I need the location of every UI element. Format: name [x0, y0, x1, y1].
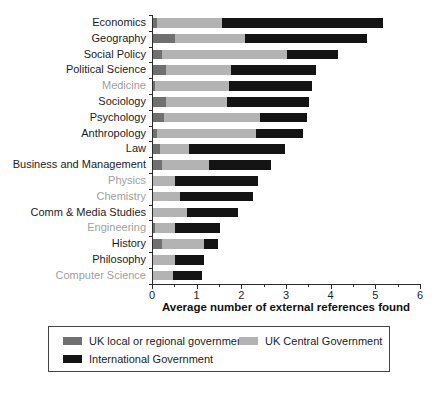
- bar-segment-central-government: [162, 160, 209, 170]
- bar-segment-international-government: [175, 223, 220, 233]
- y-axis-tick: [149, 15, 152, 16]
- x-axis-minor-tick: [308, 284, 309, 287]
- bar-segment-central-government: [153, 255, 175, 265]
- y-axis-tick: [149, 220, 152, 221]
- bar-segment-central-government: [157, 129, 255, 139]
- bar-segment-international-government: [231, 65, 316, 75]
- bar-segment-central-government: [153, 208, 187, 218]
- category-label: Economics: [0, 15, 146, 31]
- x-tick-label: 1: [194, 289, 200, 301]
- category-label: Social Policy: [0, 47, 146, 63]
- y-axis-tick: [149, 141, 152, 142]
- bar-segment-central-government: [164, 113, 260, 123]
- bar-segment-international-government: [209, 160, 272, 170]
- bar-segment-international-government: [287, 50, 338, 60]
- bar-segment-international-government: [187, 208, 238, 218]
- x-axis-title: Average number of external references fo…: [162, 301, 410, 313]
- bar-segment-central-government: [153, 176, 175, 186]
- bar-segment-central-government: [155, 81, 229, 91]
- category-label: Philosophy: [0, 252, 146, 268]
- bar-segment-central-government: [175, 34, 244, 44]
- bar-segment-central-government: [162, 239, 204, 249]
- bar-segment-international-government: [175, 176, 258, 186]
- x-tick-label: 3: [283, 289, 289, 301]
- legend-swatch-central-government: [239, 337, 258, 345]
- category-label: Chemistry: [0, 189, 146, 205]
- x-tick-label: 4: [328, 289, 334, 301]
- legend-item-central-government: UK Central Government: [239, 335, 382, 347]
- category-label: Physics: [0, 173, 146, 189]
- category-label: Comm & Media Studies: [0, 205, 146, 221]
- bar-segment-international-government: [180, 192, 254, 202]
- y-axis-tick: [149, 173, 152, 174]
- bar-segment-local-government: [153, 160, 162, 170]
- y-axis-tick: [149, 252, 152, 253]
- category-label: History: [0, 236, 146, 252]
- x-axis-minor-tick: [219, 284, 220, 287]
- x-tick-label: 0: [149, 289, 155, 301]
- bar-segment-international-government: [222, 18, 383, 28]
- category-label: Sociology: [0, 94, 146, 110]
- x-tick-label: 2: [238, 289, 244, 301]
- y-axis-tick: [149, 110, 152, 111]
- y-axis-tick: [149, 157, 152, 158]
- bar-segment-central-government: [166, 65, 231, 75]
- y-axis-tick: [149, 94, 152, 95]
- bar-segment-international-government: [175, 255, 204, 265]
- legend-swatch-international-government: [63, 355, 82, 363]
- bar-segment-international-government: [256, 129, 303, 139]
- y-axis-tick: [149, 126, 152, 127]
- bar-segment-central-government: [162, 50, 287, 60]
- category-label: Law: [0, 141, 146, 157]
- bar-segment-central-government: [166, 97, 226, 107]
- y-axis-tick: [149, 47, 152, 48]
- category-label: Computer Science: [0, 268, 146, 284]
- bar-segment-central-government: [157, 18, 222, 28]
- x-axis-minor-tick: [398, 284, 399, 287]
- bar-segment-local-government: [153, 65, 166, 75]
- bar-segment-central-government: [155, 223, 175, 233]
- bar-segment-international-government: [245, 34, 368, 44]
- bar-segment-central-government: [153, 271, 173, 281]
- legend-label-international-government: International Government: [89, 353, 213, 365]
- y-axis-tick: [149, 205, 152, 206]
- x-axis-minor-tick: [353, 284, 354, 287]
- bar-segment-local-government: [153, 97, 166, 107]
- bar-segment-central-government: [160, 144, 189, 154]
- x-tick-label: 5: [372, 289, 378, 301]
- category-label: Geography: [0, 31, 146, 47]
- y-axis-tick: [149, 189, 152, 190]
- legend-label-central-government: UK Central Government: [265, 335, 382, 347]
- y-axis-tick: [149, 62, 152, 63]
- category-label: Anthropology: [0, 126, 146, 142]
- legend-item-international-government: International Government: [63, 353, 213, 365]
- category-label: Medicine: [0, 78, 146, 94]
- bar-segment-local-government: [153, 34, 175, 44]
- x-axis-minor-tick: [174, 284, 175, 287]
- category-label: Business and Management: [0, 157, 146, 173]
- bar-segment-international-government: [227, 97, 310, 107]
- legend-swatch-local-government: [63, 337, 82, 345]
- category-label: Engineering: [0, 220, 146, 236]
- bar-segment-international-government: [189, 144, 285, 154]
- bar-segment-central-government: [153, 192, 180, 202]
- y-axis-tick: [149, 31, 152, 32]
- bar-segment-local-government: [153, 239, 162, 249]
- bar-segment-international-government: [204, 239, 217, 249]
- chart-figure: Average number of external references fo…: [0, 0, 441, 393]
- legend-item-local-government: UK local or regional government: [63, 335, 246, 347]
- bar-segment-international-government: [260, 113, 307, 123]
- bar-segment-local-government: [153, 144, 160, 154]
- legend: UK local or regional government UK Centr…: [48, 326, 390, 372]
- bar-segment-international-government: [173, 271, 202, 281]
- category-label: Psychology: [0, 110, 146, 126]
- legend-label-local-government: UK local or regional government: [89, 335, 246, 347]
- bar-segment-local-government: [153, 50, 162, 60]
- y-axis-tick: [149, 236, 152, 237]
- bar-segment-local-government: [153, 113, 164, 123]
- bar-segment-international-government: [229, 81, 312, 91]
- x-axis-minor-tick: [264, 284, 265, 287]
- y-axis-tick: [149, 78, 152, 79]
- y-axis-tick: [149, 268, 152, 269]
- x-tick-label: 6: [417, 289, 423, 301]
